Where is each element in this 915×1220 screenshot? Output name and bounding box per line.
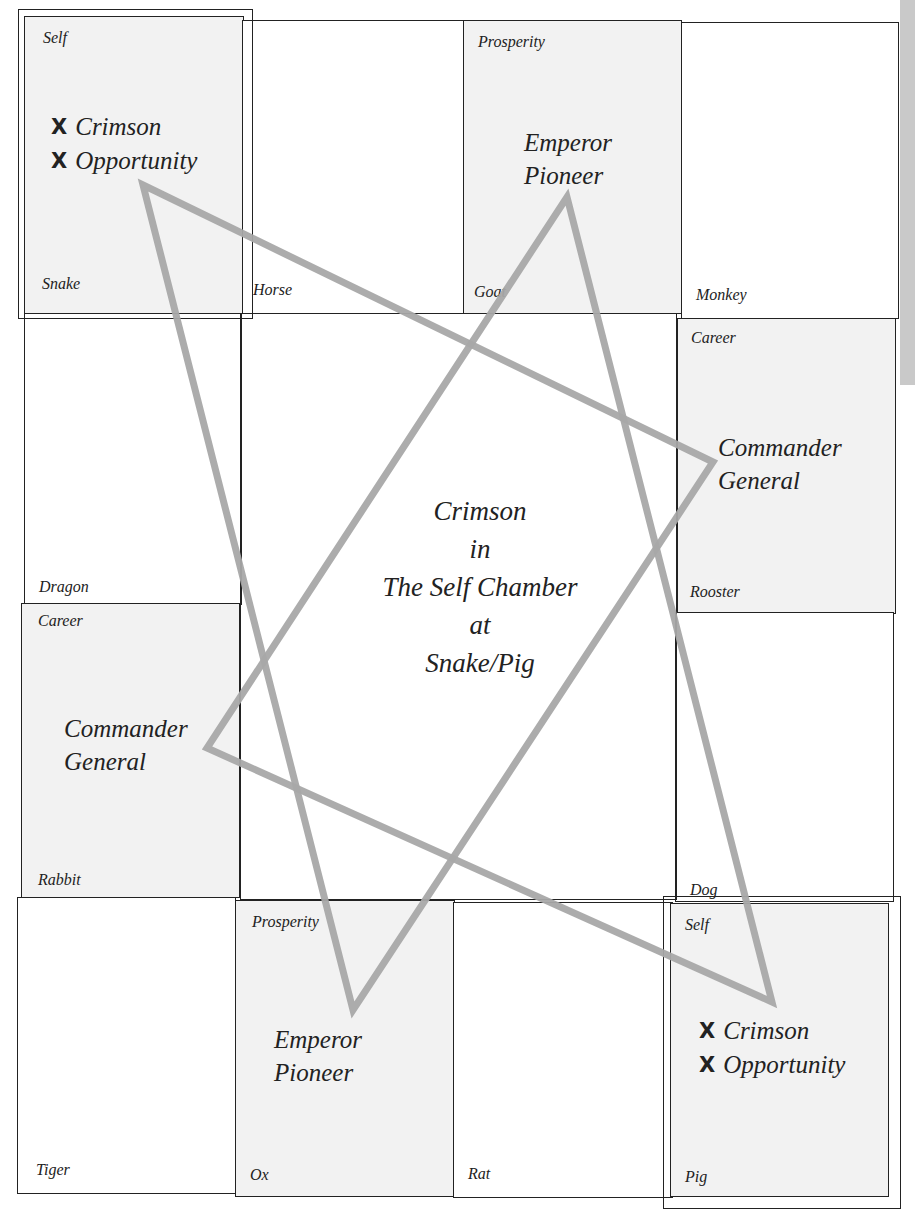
star-list: Emperor Pioneer bbox=[524, 126, 612, 192]
chamber-label: Career bbox=[38, 612, 83, 630]
branch-label: Goat bbox=[474, 283, 506, 301]
cell-ox: Prosperity Emperor Pioneer Ox bbox=[235, 900, 455, 1197]
star-item: XCrimson bbox=[51, 110, 197, 144]
cell-rooster: Career Commander General Rooster bbox=[677, 318, 896, 614]
star-list: XCrimson XOpportunity bbox=[699, 1014, 845, 1082]
branch-label: Dragon bbox=[39, 578, 89, 596]
branch-label: Snake bbox=[42, 275, 80, 293]
star-item: XCrimson bbox=[699, 1014, 845, 1048]
cell-rabbit: Career Commander General Rabbit bbox=[21, 603, 240, 898]
cell-pig: Self XCrimson XOpportunity Pig bbox=[670, 903, 889, 1197]
star-list: XCrimson XOpportunity bbox=[51, 110, 197, 178]
star-list: Commander General bbox=[64, 712, 188, 778]
page-edge-strip bbox=[900, 0, 915, 385]
chamber-label: Prosperity bbox=[252, 913, 319, 931]
cell-goat: Prosperity Emperor Pioneer Goat bbox=[463, 20, 682, 314]
cell-snake: Self XCrimson XOpportunity Snake bbox=[24, 16, 244, 314]
center-title: Crimson in The Self Chamber at Snake/Pig bbox=[330, 492, 630, 682]
branch-label: Pig bbox=[685, 1168, 707, 1186]
chamber-label: Prosperity bbox=[478, 33, 545, 51]
branch-label: Rabbit bbox=[38, 871, 81, 889]
x-mark-icon: X bbox=[51, 145, 67, 178]
branch-label: Tiger bbox=[36, 1161, 70, 1179]
x-mark-icon: X bbox=[51, 111, 67, 144]
star-list: Emperor Pioneer bbox=[274, 1023, 362, 1089]
star-item: XOpportunity bbox=[51, 144, 197, 178]
star-item: XOpportunity bbox=[699, 1048, 845, 1082]
cell-dragon: Dragon bbox=[24, 313, 242, 605]
branch-label: Ox bbox=[250, 1166, 269, 1184]
branch-label: Rat bbox=[468, 1165, 490, 1183]
chamber-label: Self bbox=[685, 916, 709, 934]
branch-label: Dog bbox=[690, 881, 718, 899]
chamber-label: Self bbox=[43, 29, 67, 47]
star-list: Commander General bbox=[718, 431, 842, 497]
cell-horse: Horse bbox=[242, 20, 464, 314]
cell-dog: Dog bbox=[675, 612, 894, 902]
cell-monkey: Monkey bbox=[681, 22, 899, 319]
cell-rat: Rat bbox=[453, 902, 673, 1198]
x-mark-icon: X bbox=[699, 1049, 715, 1082]
branch-label: Horse bbox=[253, 281, 292, 299]
branch-label: Monkey bbox=[696, 286, 747, 304]
branch-label: Rooster bbox=[690, 583, 740, 601]
cell-tiger: Tiger bbox=[17, 897, 236, 1194]
x-mark-icon: X bbox=[699, 1015, 715, 1048]
chamber-label: Career bbox=[691, 329, 736, 347]
